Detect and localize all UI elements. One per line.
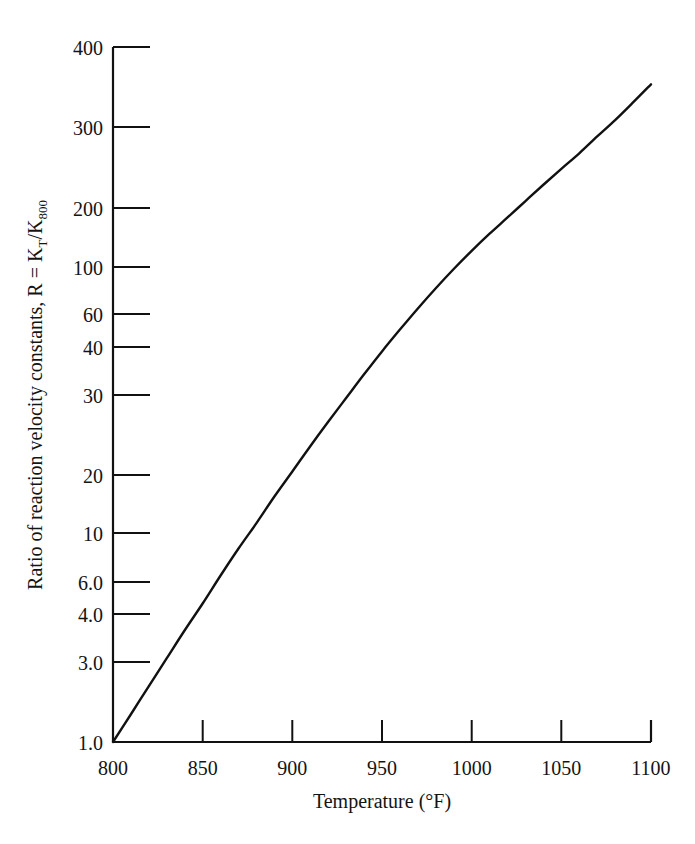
y-tick-label: 400 [73,37,103,59]
x-tick-label: 850 [188,757,218,779]
y-tick-label: 20 [83,465,103,487]
y-axis-title: Ratio of reaction velocity constants, R … [24,200,50,590]
y-tick-label: 4.0 [78,604,103,626]
data-series-line [113,84,651,742]
svg-text:Ratio of reaction velocity con: Ratio of reaction velocity constants, R … [24,200,50,590]
x-tick-label: 800 [98,757,128,779]
x-tick-label: 950 [367,757,397,779]
x-tick-label: 900 [277,757,307,779]
y-axis-title-lead: Ratio of reaction velocity constants, R … [24,247,47,590]
y-tick-label: 3.0 [78,652,103,674]
y-tick-label: 40 [83,337,103,359]
y-tick-label: 100 [73,257,103,279]
y-axis-title-sub-t: T [35,240,50,248]
x-tick-label: 1000 [452,757,492,779]
x-tick-label: 1050 [541,757,581,779]
y-axis-title-sub-800: 800 [35,200,50,220]
x-axis-ticks [203,720,562,742]
x-tick-label: 1100 [631,757,670,779]
y-tick-label: 1.0 [78,732,103,754]
y-tick-label: 200 [73,198,103,220]
x-axis-title: Temperature (°F) [313,790,451,813]
y-tick-label: 30 [83,385,103,407]
y-tick-label: 10 [83,523,103,545]
axis-spines [113,47,651,742]
y-axis-title-slash: /K [24,219,46,240]
y-tick-label: 6.0 [78,572,103,594]
y-tick-label: 300 [73,117,103,139]
y-tick-label: 60 [83,304,103,326]
y-axis-ticks [113,47,150,662]
chart-svg: 400 300 200 100 60 40 30 20 10 6.0 4.0 3… [0,0,695,844]
y-tick-labels: 400 300 200 100 60 40 30 20 10 6.0 4.0 3… [73,37,103,754]
chart-figure: 400 300 200 100 60 40 30 20 10 6.0 4.0 3… [0,0,695,844]
x-tick-labels: 800 850 900 950 1000 1050 1100 [98,757,671,779]
